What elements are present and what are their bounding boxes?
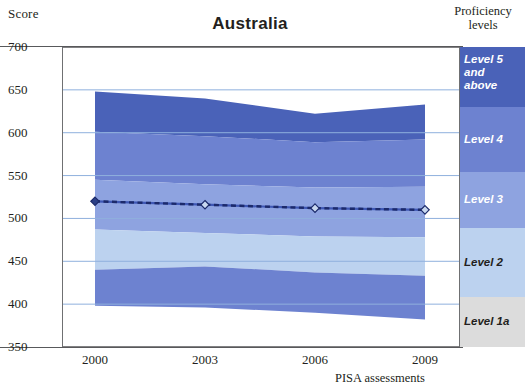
y-tick-650: 650 <box>8 82 28 98</box>
x-tick-2009: 2009 <box>412 352 438 368</box>
y-tick-350: 350 <box>8 339 28 355</box>
y-tick-700: 700 <box>8 39 28 55</box>
legend-swatch-level-1a[interactable]: Level 1a <box>460 297 525 347</box>
legend-swatch-level-4[interactable]: Level 4 <box>460 107 525 172</box>
y-axis-line <box>62 47 63 347</box>
y-tick-500: 500 <box>8 210 28 226</box>
chart-root: Score Australia Proficiency levels 70065… <box>0 0 525 389</box>
x-tick-2000: 2000 <box>82 352 108 368</box>
legend-label-2: Level 4 <box>464 133 503 146</box>
x-axis-title: PISA assessments <box>335 371 425 386</box>
y-tick-450: 450 <box>8 253 28 269</box>
y-tick-400: 400 <box>8 296 28 312</box>
y-tick-600: 600 <box>8 125 28 141</box>
legend-label-line: above <box>464 79 503 92</box>
legend-label-1: Level 5andabove <box>464 53 503 92</box>
legend-label-5: Level 1a <box>464 315 509 328</box>
legend-swatch-level-5[interactable]: Level 5andabove <box>460 47 525 107</box>
band-level-1a <box>95 266 425 319</box>
legend-swatch-level-3[interactable]: Level 3 <box>460 172 525 228</box>
legend-label-3: Level 3 <box>464 193 503 206</box>
x-tick-2006: 2006 <box>302 352 328 368</box>
x-tick-2003: 2003 <box>192 352 218 368</box>
legend-swatches: Level 5andaboveLevel 4Level 3Level 2Leve… <box>460 47 525 347</box>
chart-plot-area <box>0 0 525 389</box>
legend-label-4: Level 2 <box>464 256 503 269</box>
y-tick-550: 550 <box>8 168 28 184</box>
legend-label-line: and <box>464 66 503 79</box>
legend-swatch-level-2[interactable]: Level 2 <box>460 228 525 297</box>
legend-label-line: Level 5 <box>464 53 503 66</box>
